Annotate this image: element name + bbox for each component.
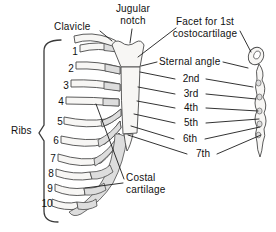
rib-number-4: 4	[54, 97, 68, 107]
rib-number-7: 7	[46, 154, 60, 164]
leader-5th-right	[206, 119, 259, 123]
ribs-brace	[39, 40, 61, 222]
rib-number-9: 9	[43, 184, 57, 194]
label-clavicle: Clavicle	[54, 21, 91, 33]
label-costal-6th: 6th	[175, 133, 205, 144]
leader-jugular-notch	[130, 29, 132, 43]
label-costal-4th: 4th	[176, 102, 206, 113]
leader-4th-left	[137, 101, 175, 108]
label-jugular-notch: Jugular notch	[109, 3, 157, 26]
label-costal-7th: 7th	[188, 148, 218, 159]
leader-sternal-angle-left	[141, 62, 157, 66]
sternal-body	[121, 67, 140, 134]
label-costal-3rd: 3rd	[176, 88, 206, 99]
leader-3rd-right	[206, 94, 256, 99]
leader-sternal-angle-right	[223, 62, 248, 68]
rib-number-3: 3	[59, 81, 73, 91]
label-costal-5th: 5th	[176, 117, 206, 128]
leader-2nd-right	[206, 79, 253, 87]
manubrium	[112, 41, 144, 67]
label-costal-cartilage: Costal cartilage	[126, 172, 172, 195]
label-sternal-angle: Sternal angle	[159, 56, 221, 68]
leader-2nd-left	[140, 72, 175, 79]
leader-6th-right	[205, 127, 260, 139]
leader-3rd-left	[138, 87, 175, 94]
label-costal-2nd: 2nd	[176, 73, 206, 84]
label-ribs: Ribs	[11, 125, 32, 137]
rib-number-2: 2	[64, 64, 78, 74]
rib-number-8: 8	[44, 169, 58, 179]
rib-number-6: 6	[49, 136, 63, 146]
leader-7th-right	[217, 135, 261, 154]
leader-5th-left	[134, 114, 175, 123]
rib-number-10: 10	[40, 199, 54, 209]
rib-number-5: 5	[53, 117, 67, 127]
label-facet-for-1st-costocartilage: Facet for 1st costocartilage	[166, 16, 244, 39]
thoracic-cage-diagram: Clavicle Jugular notch Facet for 1st cos…	[0, 0, 276, 232]
leader-4th-right	[206, 108, 258, 111]
rib-number-1: 1	[68, 47, 82, 57]
